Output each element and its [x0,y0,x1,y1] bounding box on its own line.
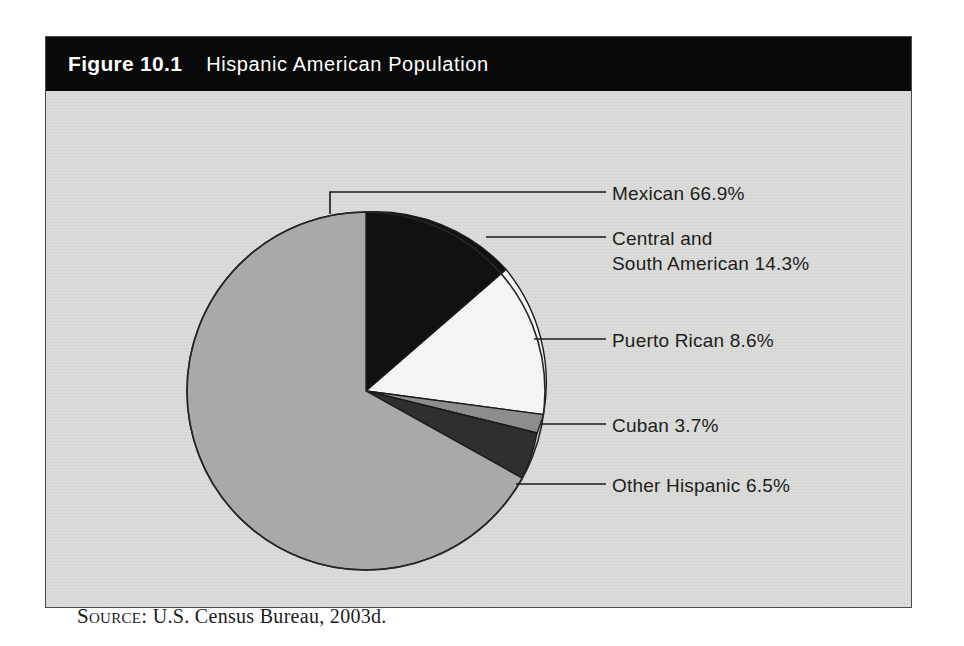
source-text: U.S. Census Bureau, 2003d. [153,605,387,627]
label-puerto-rican: Puerto Rican 8.6% [612,328,774,353]
pie-chart [46,91,912,608]
figure-title: Hispanic American Population [206,53,489,76]
label-mexican: Mexican 66.9% [612,181,745,206]
label-central-south-american-line1: Central and [612,226,712,251]
label-cuban: Cuban 3.7% [612,413,719,438]
leader-line-mexican [330,192,606,214]
figure-number: Figure 10.1 [68,52,182,76]
source-note: Source: U.S. Census Bureau, 2003d. [77,604,387,629]
figure-header-bar: Figure 10.1 Hispanic American Population [46,37,911,91]
label-other-hispanic: Other Hispanic 6.5% [612,473,790,498]
figure-container: Figure 10.1 Hispanic American Population [45,36,912,608]
figure-body: Mexican 66.9% Central and South American… [46,91,911,607]
label-central-south-american-line2: South American 14.3% [612,251,809,276]
source-label: Source: [77,604,147,628]
